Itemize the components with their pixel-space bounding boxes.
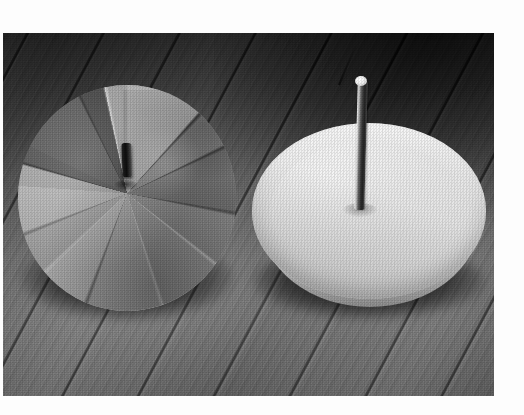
photograph — [3, 33, 494, 396]
segmented-disc-cut-lines — [18, 85, 236, 311]
dish-with-rod — [249, 117, 489, 322]
segmented-disc-body — [18, 85, 236, 311]
segmented-disc — [18, 85, 236, 322]
segmented-disc-pin-base-shadow — [114, 180, 138, 191]
screenshot-canvas: Two round disc-shaped objects resting on… — [0, 0, 524, 415]
rod-tip-highlight — [355, 76, 367, 86]
segmented-disc-center-pin — [121, 142, 132, 176]
